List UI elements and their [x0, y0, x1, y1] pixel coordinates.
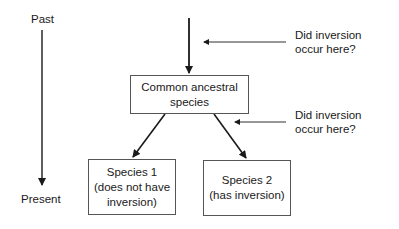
- species1-box: Species 1 (does not have inversion): [88, 159, 176, 215]
- ancestor-box: Common ancestral species: [130, 75, 249, 114]
- past-label: Past: [31, 12, 54, 26]
- species1-label: Species 1 (does not have inversion): [94, 165, 170, 210]
- species2-box: Species 2 (has inversion): [203, 160, 291, 216]
- present-label: Present: [21, 192, 61, 206]
- question-label-2: Did inversion occur here?: [295, 108, 361, 136]
- ancestor-label: Common ancestral species: [141, 80, 238, 110]
- question-label-1: Did inversion occur here?: [295, 28, 361, 56]
- branch-arrow-species1: [133, 114, 165, 157]
- branch-arrow-species2: [214, 114, 246, 158]
- species2-label: Species 2 (has inversion): [209, 173, 284, 203]
